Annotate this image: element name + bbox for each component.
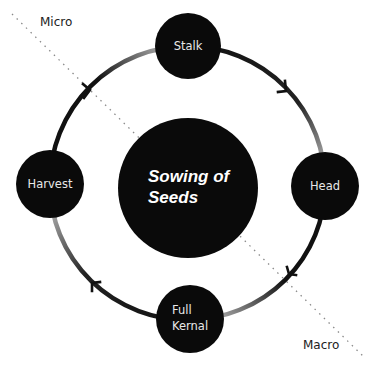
cycle-diagram: Sowing of Seeds Stalk Head Full Kernal H… (0, 0, 375, 367)
node-stalk-label: Stalk (174, 39, 203, 53)
node-full-kernal: Full Kernal (156, 285, 224, 353)
center-label-line2: Seeds (148, 188, 198, 207)
node-stalk: Stalk (155, 13, 221, 79)
node-full-kernal-label-line2: Kernal (172, 319, 208, 333)
node-head: Head (291, 152, 359, 220)
center-node: Sowing of Seeds (118, 118, 258, 258)
macro-label: Macro (303, 338, 339, 352)
node-harvest-label: Harvest (28, 177, 73, 191)
center-label-line1: Sowing of (148, 167, 232, 186)
node-head-label: Head (310, 179, 340, 193)
node-harvest: Harvest (16, 150, 84, 218)
micro-label: Micro (40, 15, 72, 29)
node-full-kernal-label-line1: Full (172, 303, 192, 317)
